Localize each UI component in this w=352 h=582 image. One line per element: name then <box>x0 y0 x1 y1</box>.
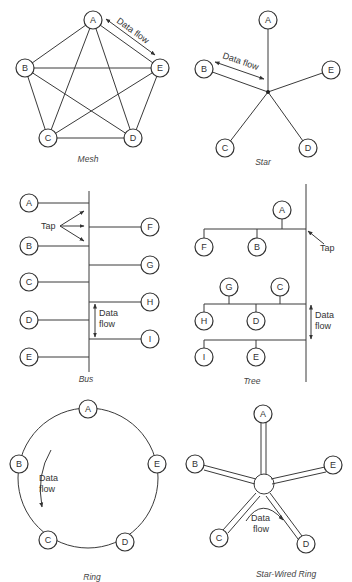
mesh-node-a: A <box>84 11 102 29</box>
tree-node-c: C <box>271 278 289 296</box>
data-label: Data <box>99 308 118 318</box>
star-node-b: B <box>195 60 213 78</box>
mesh-node-e: E <box>151 59 169 77</box>
svg-text:B: B <box>22 63 28 73</box>
star-wired-ring-panel: Data flow A B E C D Star-Wired Ring <box>186 405 342 579</box>
ring-panel: Data flow A B E C D Ring <box>10 400 166 582</box>
bus-node-f: F <box>141 218 159 236</box>
swr-node-a: A <box>254 405 272 423</box>
ring-node-a: A <box>79 400 97 418</box>
tree-node-f: F <box>195 238 213 256</box>
swr-node-b: B <box>186 455 204 473</box>
tree-node-h: H <box>195 312 213 330</box>
svg-text:D: D <box>305 143 312 153</box>
concentrator-hub <box>254 474 274 494</box>
svg-text:B: B <box>192 459 198 469</box>
flow-label: flow <box>315 321 332 331</box>
data-label: Data <box>39 473 58 483</box>
tree-node-g: G <box>220 278 238 296</box>
svg-text:C: C <box>26 277 33 287</box>
network-topologies-figure: Data flow A B E C D Mesh Data flow A B E… <box>0 0 352 582</box>
svg-text:C: C <box>216 533 223 543</box>
ring-caption: Ring <box>83 572 101 582</box>
svg-text:A: A <box>265 15 271 25</box>
svg-text:D: D <box>303 539 310 549</box>
ring-node-d: D <box>116 533 134 551</box>
svg-text:D: D <box>130 133 137 143</box>
mesh-node-b: B <box>16 59 34 77</box>
star-node-e: E <box>322 61 340 79</box>
svg-text:E: E <box>328 65 334 75</box>
bus-node-a: A <box>20 194 38 212</box>
tap-label: Tap <box>320 243 335 253</box>
tree-node-d: D <box>247 312 265 330</box>
svg-text:D: D <box>122 537 129 547</box>
svg-text:E: E <box>330 460 336 470</box>
svg-text:G: G <box>146 260 153 270</box>
star-wired-ring-caption: Star-Wired Ring <box>256 569 317 579</box>
star-hub <box>266 90 270 94</box>
svg-text:F: F <box>147 222 153 232</box>
mesh-caption: Mesh <box>78 154 99 164</box>
tree-panel: Tap Data flow A F B G C H D I E Tree <box>195 184 335 386</box>
svg-text:A: A <box>260 409 266 419</box>
bus-node-i: I <box>141 330 159 348</box>
svg-text:I: I <box>203 352 206 362</box>
svg-text:E: E <box>253 352 259 362</box>
svg-text:B: B <box>16 459 22 469</box>
svg-text:E: E <box>26 352 32 362</box>
bus-node-b: B <box>20 237 38 255</box>
bus-panel: Tap Data flow A B C D E F G H I Bus <box>20 191 159 384</box>
star-links <box>204 20 331 148</box>
svg-text:B: B <box>254 242 260 252</box>
data-flow-label: Data flow <box>221 50 260 72</box>
svg-text:D: D <box>26 315 33 325</box>
svg-text:D: D <box>253 316 260 326</box>
data-label: Data <box>315 310 334 320</box>
bus-node-d: D <box>20 311 38 329</box>
ring-node-e: E <box>148 455 166 473</box>
tree-caption: Tree <box>244 376 261 386</box>
bus-node-h: H <box>141 293 159 311</box>
mesh-node-d: D <box>124 129 142 147</box>
data-flow-label: Data flow <box>115 16 152 46</box>
tap-arrows <box>60 211 84 241</box>
star-node-a: A <box>259 11 277 29</box>
svg-text:A: A <box>90 15 96 25</box>
tree-node-e: E <box>247 348 265 366</box>
star-node-c: C <box>216 139 234 157</box>
svg-text:H: H <box>147 297 154 307</box>
svg-text:G: G <box>225 282 232 292</box>
tree-node-b: B <box>248 238 266 256</box>
svg-text:C: C <box>222 143 229 153</box>
star-caption: Star <box>255 157 272 167</box>
svg-text:C: C <box>277 282 284 292</box>
svg-text:F: F <box>201 242 207 252</box>
svg-text:B: B <box>26 241 32 251</box>
bus-node-g: G <box>141 256 159 274</box>
svg-text:A: A <box>85 404 91 414</box>
mesh-node-c: C <box>39 129 57 147</box>
star-panel: Data flow A B E C D Star <box>195 11 340 167</box>
star-node-d: D <box>299 139 317 157</box>
tree-branches <box>204 210 306 357</box>
bus-caption: Bus <box>79 374 94 384</box>
ring-node-b: B <box>10 455 28 473</box>
swr-node-c: C <box>210 529 228 547</box>
svg-text:B: B <box>201 64 207 74</box>
svg-text:H: H <box>201 316 208 326</box>
mesh-panel: Data flow A B E C D Mesh <box>16 11 169 164</box>
swr-node-d: D <box>297 535 315 553</box>
svg-text:E: E <box>154 459 160 469</box>
flow-label: flow <box>253 524 270 534</box>
svg-text:C: C <box>45 133 52 143</box>
ring-node-c: C <box>39 531 57 549</box>
flow-label: flow <box>39 484 56 494</box>
svg-text:A: A <box>26 198 32 208</box>
flow-label: flow <box>99 319 116 329</box>
bus-node-e: E <box>20 348 38 366</box>
svg-text:C: C <box>45 535 52 545</box>
svg-text:A: A <box>279 205 285 215</box>
bus-node-c: C <box>20 273 38 291</box>
data-label: Data <box>251 513 270 523</box>
